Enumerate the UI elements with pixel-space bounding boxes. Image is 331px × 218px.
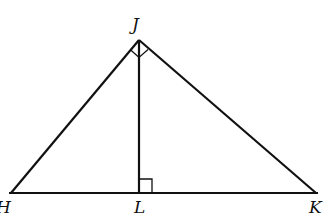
triangle-diagram: J H L K [0,0,331,218]
segment-jk [139,40,316,193]
label-h: H [0,197,12,217]
label-k: K [308,197,323,217]
label-j: J [129,14,140,34]
segment-hj [11,40,139,193]
label-l: L [133,197,145,217]
right-angle-mark-l [139,179,152,193]
